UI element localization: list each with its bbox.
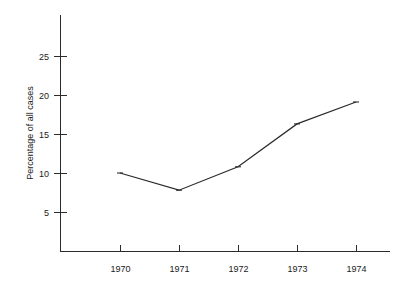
x-tick-label: 1974 xyxy=(346,264,366,274)
chart-canvas: 252015105 19701971197219731974 Percentag… xyxy=(0,0,407,287)
y-tick-label: 5 xyxy=(44,208,49,218)
y-tick-label: 15 xyxy=(39,130,49,140)
x-tick-label: 1971 xyxy=(169,264,189,274)
line-chart: 252015105 19701971197219731974 Percentag… xyxy=(0,0,407,287)
y-tick-label: 10 xyxy=(39,169,49,179)
y-tick-label: 20 xyxy=(39,91,49,101)
x-tick-label: 1973 xyxy=(287,264,307,274)
y-tick-label: 25 xyxy=(39,52,49,62)
x-tick-label: 1972 xyxy=(228,264,248,274)
y-axis-title: Percentage of all cases xyxy=(25,86,35,180)
x-tick-label: 1970 xyxy=(110,264,130,274)
